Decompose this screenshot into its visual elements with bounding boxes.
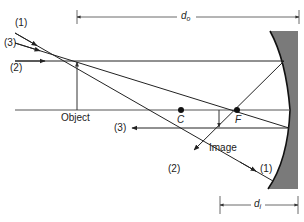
object-label: Object: [61, 113, 90, 123]
ray-2-label: (2): [10, 63, 22, 73]
ray-3-out-label: (3): [114, 123, 126, 133]
ray-2-out-label: (2): [168, 164, 180, 174]
ray-diagram: (1) (3) (2) Object (3) C F Image (2) (1)…: [0, 0, 304, 222]
ray-3-label: (3): [4, 38, 16, 48]
ray-1-label: (1): [15, 18, 27, 28]
object-distance-label: do: [181, 11, 190, 22]
ray-1-out-label: (1): [260, 164, 272, 174]
ray-2-reflected: [194, 61, 284, 150]
focus-label: F: [235, 115, 241, 125]
focal-point: [234, 107, 240, 113]
center-of-curvature-point: [178, 107, 184, 113]
diagram-canvas: [0, 0, 304, 222]
ray-3-incoming: [15, 43, 289, 128]
image-distance-label: di: [254, 199, 261, 210]
image-label: Image: [209, 143, 237, 153]
center-label: C: [177, 115, 184, 125]
